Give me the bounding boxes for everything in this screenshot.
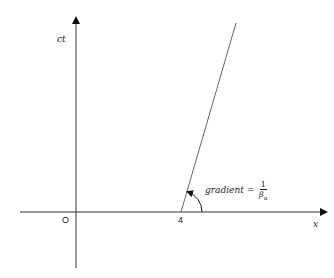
angle-arc <box>188 192 202 212</box>
beta-subscript: u <box>264 194 268 201</box>
gradient-annotation: gradient = 1 βu <box>205 180 268 202</box>
origin-label: O <box>62 215 69 225</box>
x-axis-label: x <box>313 219 318 229</box>
fraction-numerator: 1 <box>260 180 267 190</box>
gradient-text: gradient = <box>205 185 254 195</box>
x-intercept-label: 4 <box>178 215 183 225</box>
gradient-fraction: 1 βu <box>259 180 268 202</box>
fraction-denominator: βu <box>259 190 268 202</box>
diagram-canvas <box>0 0 334 278</box>
ct-axis-label: ct <box>57 34 66 44</box>
